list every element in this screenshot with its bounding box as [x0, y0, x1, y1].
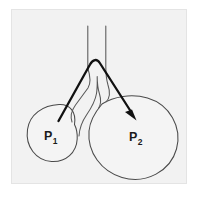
- airway-left-outer-wall: [71, 26, 90, 122]
- pressure-label-p2-base: P: [129, 130, 137, 144]
- figure-root: P1 P2: [0, 0, 204, 201]
- pressure-label-p1-subscript: 1: [53, 136, 58, 146]
- pressure-label-p2-subscript: 2: [138, 137, 143, 147]
- alveoli-diagram: P1 P2: [0, 0, 204, 201]
- pressure-label-p1-base: P: [44, 129, 52, 143]
- airway-right-outer-wall: [106, 26, 110, 102]
